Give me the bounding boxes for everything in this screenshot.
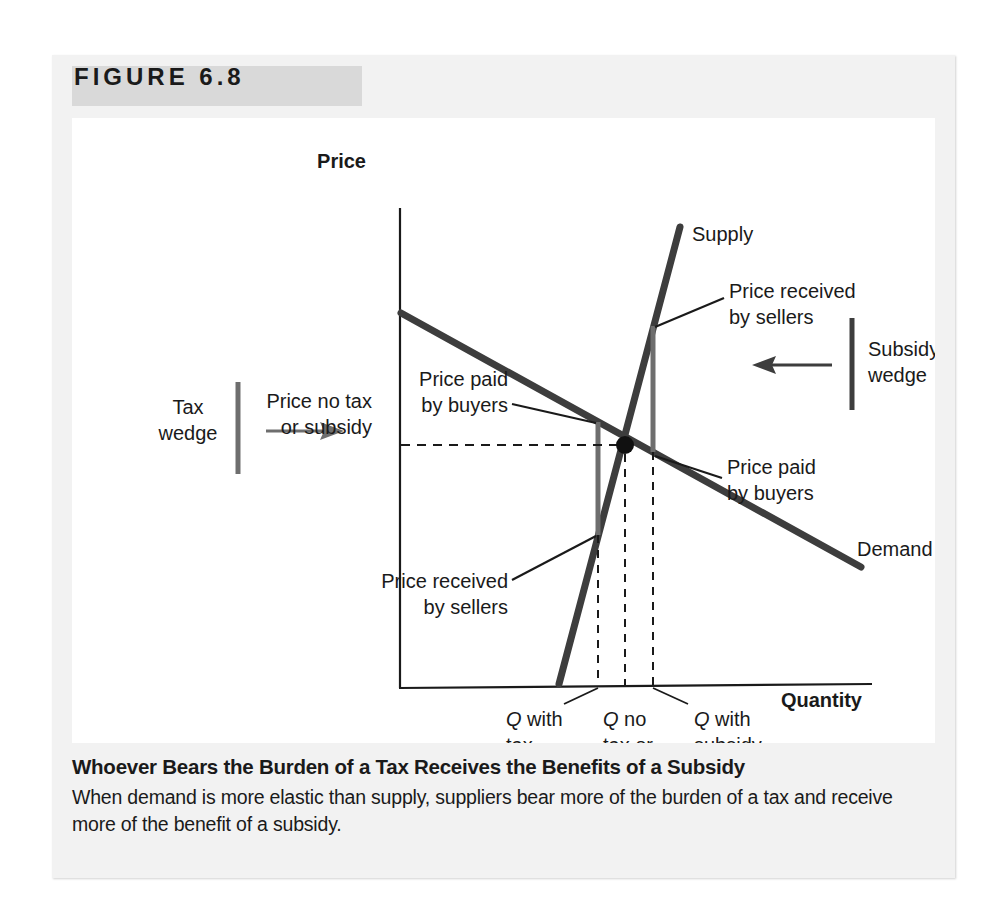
figure-card: FIGURE 6.8 Price Quantity Demand Supply <box>52 55 955 878</box>
x-marker-q-with-subsidy: Q with subsidy <box>694 708 762 743</box>
tax-wedge-label-line1: Tax <box>172 396 203 418</box>
figure-caption: Whoever Bears the Burden of a Tax Receiv… <box>72 755 934 838</box>
q-with-subsidy-leader <box>653 688 688 704</box>
price-received-sellers-lower-line1: Price received <box>381 570 508 592</box>
price-received-sellers-upper-leader <box>655 298 724 327</box>
svg-text:Q with: Q with <box>694 708 751 730</box>
x-axis-title: Quantity <box>781 689 863 711</box>
q-no-2: no <box>619 708 647 730</box>
svg-text:Q with: Q with <box>506 708 563 730</box>
q-letter-1: Q <box>506 708 522 730</box>
demand-curve-label: Demand <box>857 538 933 560</box>
q-no-tax-line2: tax or <box>603 734 653 743</box>
price-no-tax-label-line2: or subsidy <box>281 416 372 438</box>
price-no-tax-label-line1: Price no tax <box>266 390 372 412</box>
equilibrium-point <box>616 436 634 454</box>
tax-wedge-label-line2: wedge <box>158 422 218 444</box>
price-received-sellers-upper-line2: by sellers <box>729 306 813 328</box>
price-paid-buyers-lower-line1: Price paid <box>727 456 816 478</box>
q-with-tax-line2: tax <box>506 734 533 743</box>
subsidy-wedge-label-line1: Subsidy <box>868 338 935 360</box>
price-paid-buyers-lower-line2: by buyers <box>727 482 814 504</box>
caption-title: Whoever Bears the Burden of a Tax Receiv… <box>72 755 934 779</box>
q-with-1: with <box>522 708 563 730</box>
x-axis-line <box>399 684 872 688</box>
q-with-tax-leader <box>564 688 598 704</box>
y-axis-title: Price <box>317 150 366 172</box>
price-received-sellers-upper-line1: Price received <box>729 280 856 302</box>
caption-body: When demand is more elastic than supply,… <box>72 784 934 838</box>
figure-number-label: FIGURE 6.8 <box>74 63 245 91</box>
q-letter-2: Q <box>603 708 619 730</box>
chart-panel: Price Quantity Demand Supply <box>72 118 935 743</box>
price-received-sellers-lower-line2: by sellers <box>424 596 508 618</box>
q-with-3: with <box>710 708 751 730</box>
subsidy-wedge-label-line2: wedge <box>867 364 927 386</box>
q-letter-3: Q <box>694 708 710 730</box>
supply-curve-label: Supply <box>692 223 753 245</box>
price-paid-buyers-upper-line2: by buyers <box>421 394 508 416</box>
price-received-sellers-lower-leader <box>512 536 596 580</box>
x-marker-q-no-tax-or-subsidy: Q no tax or subsidy <box>603 708 671 743</box>
q-with-subsidy-line2: subsidy <box>694 734 762 743</box>
svg-text:Q no: Q no <box>603 708 646 730</box>
price-paid-buyers-upper-line1: Price paid <box>419 368 508 390</box>
subsidy-wedge-arrow-icon <box>752 356 832 374</box>
economics-supply-demand-chart: Price Quantity Demand Supply <box>72 118 935 743</box>
x-marker-q-with-tax: Q with tax <box>506 708 563 743</box>
